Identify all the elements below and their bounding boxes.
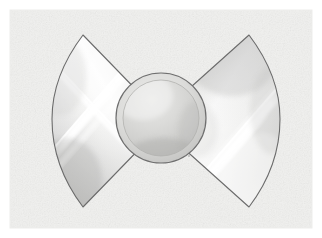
figure-root: Symmetric bowtie illustration with two c… <box>0 0 322 238</box>
illustration-canvas <box>0 0 322 238</box>
dome-speck <box>188 155 190 157</box>
